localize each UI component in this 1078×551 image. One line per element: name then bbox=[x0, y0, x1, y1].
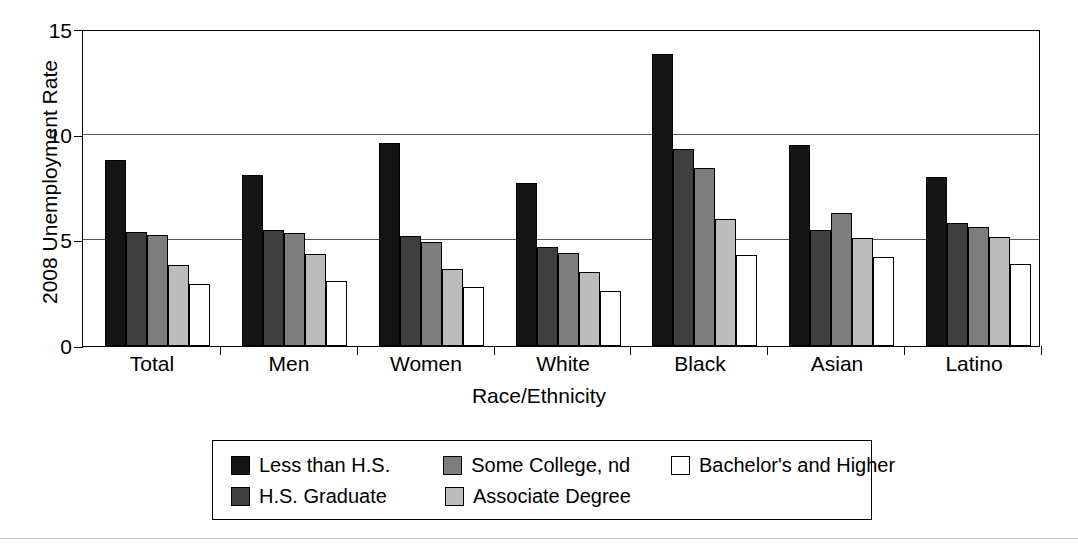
y-tick-label-5: 5 bbox=[10, 230, 72, 251]
legend-swatch-icon bbox=[443, 456, 462, 475]
chart-legend: Less than H.S. Some College, nd Bachelor… bbox=[212, 440, 872, 520]
legend-item-bachelors-and-higher: Bachelor's and Higher bbox=[671, 454, 871, 477]
bar bbox=[400, 236, 421, 346]
x-tick-label-asian: Asian bbox=[767, 352, 907, 376]
bar bbox=[189, 284, 210, 346]
x-tick-label-white: White bbox=[493, 352, 633, 376]
bar bbox=[579, 272, 600, 346]
bar-group-latino bbox=[904, 31, 1041, 346]
bar bbox=[968, 227, 989, 346]
bar bbox=[463, 287, 484, 346]
x-tick-label-latino: Latino bbox=[904, 352, 1044, 376]
bar bbox=[715, 219, 736, 346]
bar bbox=[600, 291, 621, 346]
legend-swatch-icon bbox=[231, 487, 250, 506]
bar bbox=[810, 230, 831, 346]
bar bbox=[736, 255, 757, 346]
legend-swatch-icon bbox=[445, 487, 464, 506]
bar bbox=[326, 281, 347, 347]
bar bbox=[558, 253, 579, 346]
footer-divider bbox=[0, 538, 1078, 539]
bar-group-total bbox=[83, 31, 220, 346]
y-tick-label-10: 10 bbox=[10, 125, 72, 146]
bar-group-black bbox=[630, 31, 767, 346]
legend-item-less-than-hs: Less than H.S. bbox=[231, 454, 443, 477]
y-tick-mark-0 bbox=[74, 347, 83, 348]
x-tick-label-men: Men bbox=[219, 352, 359, 376]
bar bbox=[673, 149, 694, 346]
bar bbox=[305, 254, 326, 346]
x-axis-title: Race/Ethnicity bbox=[0, 384, 1078, 408]
bar bbox=[873, 257, 894, 346]
bar bbox=[105, 160, 126, 346]
bar-group-men bbox=[220, 31, 357, 346]
legend-label: Some College, nd bbox=[471, 454, 630, 477]
bar bbox=[1010, 264, 1031, 346]
legend-label: Bachelor's and Higher bbox=[699, 454, 895, 477]
bar bbox=[126, 232, 147, 346]
bar bbox=[789, 145, 810, 346]
bar bbox=[263, 230, 284, 346]
chart-figure: 2008 Unemployment Rate 15 10 5 0 Total M… bbox=[0, 0, 1078, 551]
bar bbox=[694, 168, 715, 346]
legend-label: Associate Degree bbox=[473, 485, 631, 508]
legend-row: Less than H.S. Some College, nd Bachelor… bbox=[231, 450, 871, 481]
legend-item-hs-graduate: H.S. Graduate bbox=[231, 485, 445, 508]
bar bbox=[831, 213, 852, 346]
bar bbox=[421, 242, 442, 346]
legend-item-associate-degree: Associate Degree bbox=[445, 485, 675, 508]
bar bbox=[989, 237, 1010, 346]
bar bbox=[516, 183, 537, 346]
bar bbox=[147, 235, 168, 346]
legend-item-some-college: Some College, nd bbox=[443, 454, 671, 477]
x-tick-label-women: Women bbox=[356, 352, 496, 376]
plot-area bbox=[82, 30, 1040, 347]
bar-group-women bbox=[357, 31, 494, 346]
bar bbox=[284, 233, 305, 346]
legend-swatch-icon bbox=[231, 456, 250, 475]
bar bbox=[852, 238, 873, 346]
bar bbox=[242, 175, 263, 346]
y-tick-label-0: 0 bbox=[10, 336, 72, 357]
bar-group-white bbox=[494, 31, 631, 346]
x-tick-label-black: Black bbox=[630, 352, 770, 376]
legend-label: Less than H.S. bbox=[259, 454, 390, 477]
bar-group-asian bbox=[767, 31, 904, 346]
y-axis-title: 2008 Unemployment Rate bbox=[38, 12, 62, 352]
x-tick-label-total: Total bbox=[82, 352, 222, 376]
legend-row: H.S. Graduate Associate Degree bbox=[231, 481, 871, 512]
bar bbox=[379, 143, 400, 346]
bar bbox=[926, 177, 947, 346]
bar bbox=[168, 265, 189, 346]
legend-label: H.S. Graduate bbox=[259, 485, 387, 508]
bar bbox=[947, 223, 968, 346]
bar bbox=[442, 269, 463, 346]
bar bbox=[652, 54, 673, 346]
legend-swatch-icon bbox=[671, 456, 690, 475]
bar bbox=[537, 247, 558, 346]
y-tick-label-15: 15 bbox=[10, 20, 72, 41]
